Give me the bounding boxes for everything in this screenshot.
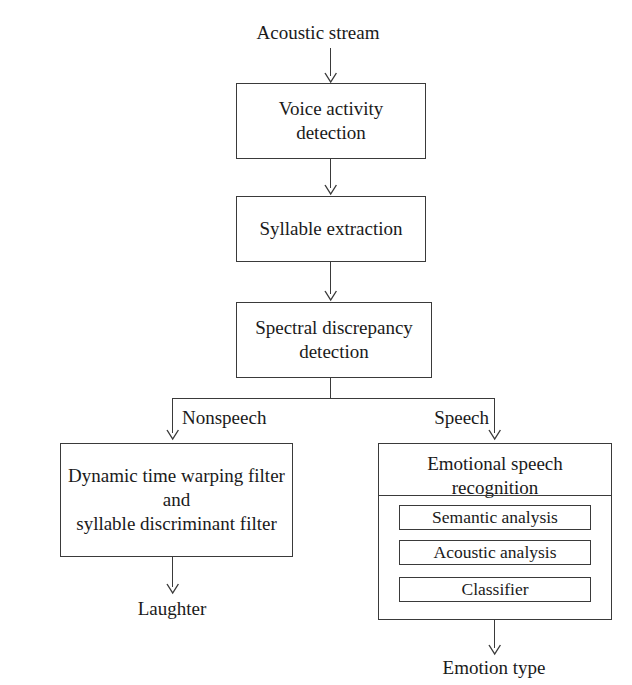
node-emotional-speech-recognition-header: Emotional speech recognition [379, 452, 611, 501]
connector-spectral-branch-stem [330, 378, 331, 399]
connector-branch-left-drop [172, 398, 173, 433]
subnode-semantic-analysis[interactable]: Semantic analysis [399, 505, 591, 530]
node-syllable-extraction-line1: Syllable extraction [260, 217, 403, 241]
node-voice-activity-detection-line1: Voice activity [279, 97, 384, 121]
node-dtw-line1: Dynamic time warping filter [68, 464, 285, 488]
node-esr-line2: recognition [452, 476, 539, 500]
subnode-acoustic-analysis[interactable]: Acoustic analysis [399, 540, 591, 565]
branch-label-nonspeech: Nonspeech [182, 407, 302, 429]
subnode-acoustic-analysis-label: Acoustic analysis [434, 541, 557, 563]
arrowhead-dtw-to-laughter [166, 583, 180, 595]
branch-label-speech: Speech [407, 407, 489, 429]
connector-branch-right-drop [494, 398, 495, 433]
flowchart-diagram: Acoustic stream Voice activity detection… [0, 0, 632, 685]
node-dynamic-time-warping-filter[interactable]: Dynamic time warping filter and syllable… [60, 443, 293, 557]
node-voice-activity-detection[interactable]: Voice activity detection [236, 83, 426, 159]
node-spectral-discrepancy-detection-line1: Spectral discrepancy [255, 316, 413, 340]
node-spectral-discrepancy-detection[interactable]: Spectral discrepancy detection [236, 302, 432, 378]
arrowhead-branch-left [166, 429, 180, 441]
node-voice-activity-detection-line2: detection [296, 121, 366, 145]
node-dtw-line3: syllable discriminant filter [76, 512, 277, 536]
arrowhead-esr-to-emotion-type [488, 644, 502, 656]
output-label-emotion-type: Emotion type [424, 657, 564, 679]
node-syllable-extraction[interactable]: Syllable extraction [236, 196, 426, 262]
group-divider-line [378, 495, 613, 496]
arrowhead-branch-right [488, 429, 502, 441]
arrowhead-syllable-to-spectral [324, 290, 338, 302]
node-spectral-discrepancy-detection-line2: detection [299, 340, 369, 364]
input-label-acoustic-stream: Acoustic stream [248, 22, 388, 44]
output-label-laughter: Laughter [112, 598, 232, 620]
node-emotional-speech-recognition[interactable]: Emotional speech recognition Semantic an… [378, 443, 612, 620]
node-dtw-line2: and [163, 488, 190, 512]
connector-branch-bar [172, 398, 495, 399]
subnode-semantic-analysis-label: Semantic analysis [432, 506, 558, 528]
subnode-classifier-label: Classifier [461, 578, 528, 600]
node-esr-line1: Emotional speech [427, 452, 563, 476]
subnode-classifier[interactable]: Classifier [399, 577, 591, 602]
arrowhead-vad-to-syllable-extraction [324, 184, 338, 196]
